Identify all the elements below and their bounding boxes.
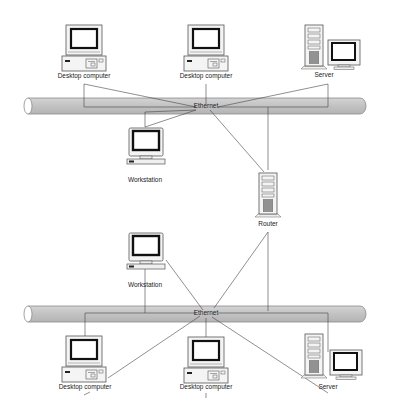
router-label: Router	[258, 221, 278, 228]
top-ethernet-label: Ethernet	[194, 103, 219, 110]
top-desktop-2-label: Desktop computer	[180, 73, 233, 80]
top-workstation-icon	[127, 128, 165, 164]
bottom-server-monitor-icon	[330, 350, 362, 380]
bottom-server-label: Server	[318, 384, 337, 391]
top-server-monitor-icon	[328, 40, 360, 70]
network-diagram: Desktop computer Desktop computer Server…	[0, 0, 412, 417]
bottom-workstation-label: Workstation	[128, 282, 162, 289]
bottom-workstation-icon	[127, 233, 165, 269]
router-icon	[255, 173, 281, 217]
router-connections	[214, 232, 268, 311]
bottom-desktop-1-icon	[62, 336, 106, 382]
top-workstation-label: Workstation	[128, 177, 162, 184]
top-desktop-1-icon	[62, 25, 106, 71]
bottom-desktop-2-label: Desktop computer	[180, 384, 233, 391]
top-desktop-1-label: Desktop computer	[58, 73, 111, 80]
bottom-desktop-2-icon	[184, 337, 228, 383]
bottom-ethernet-label: Ethernet	[194, 310, 219, 317]
bottom-desktop-1-label: Desktop computer	[59, 384, 112, 391]
top-connections	[84, 84, 328, 172]
top-server-label: Server	[314, 72, 333, 79]
top-desktop-2-icon	[184, 25, 228, 71]
bottom-server-tower-icon	[301, 334, 327, 378]
top-server-tower-icon	[301, 25, 327, 69]
